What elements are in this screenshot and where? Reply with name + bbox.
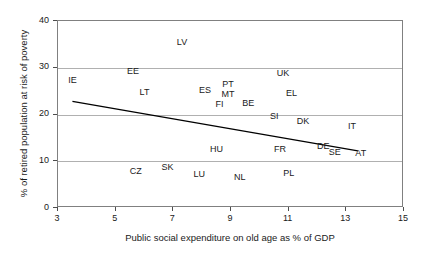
data-point-de: DE xyxy=(317,141,330,150)
x-tick-label-3: 3 xyxy=(47,214,67,223)
data-point-se: SE xyxy=(329,147,341,156)
data-point-hu: HU xyxy=(210,145,223,154)
data-point-pt: PT xyxy=(222,80,234,89)
scatter-chart-figure: % of retired population at risk of pover… xyxy=(0,0,424,253)
data-point-be: BE xyxy=(242,99,254,108)
data-point-fi: FI xyxy=(215,100,223,109)
y-tick-label-0: 0 xyxy=(27,203,49,212)
data-point-cz: CZ xyxy=(130,167,142,176)
data-point-uk: UK xyxy=(277,68,290,77)
data-point-fr: FR xyxy=(274,145,286,154)
data-point-el: EL xyxy=(286,88,297,97)
y-tick-label-10: 10 xyxy=(27,156,49,165)
x-axis-title: Public social expenditure on old age as … xyxy=(57,232,403,243)
x-tick-label-5: 5 xyxy=(105,214,125,223)
x-tick-label-9: 9 xyxy=(220,214,240,223)
data-point-mt: MT xyxy=(222,89,235,98)
data-point-lu: LU xyxy=(194,169,206,178)
data-point-si: SI xyxy=(270,111,279,120)
plot-area: LVEEUKIEPTESLTELMTBEFISIDKITDEHUFRSEATSK… xyxy=(57,20,403,207)
x-tick-label-11: 11 xyxy=(278,214,298,223)
data-point-nl: NL xyxy=(234,173,246,182)
data-point-dk: DK xyxy=(297,117,310,126)
data-point-lt: LT xyxy=(140,88,150,97)
data-point-it: IT xyxy=(348,122,356,131)
x-tick-label-7: 7 xyxy=(162,214,182,223)
y-tick-label-20: 20 xyxy=(27,109,49,118)
data-point-pl: PL xyxy=(283,168,294,177)
y-tick-label-30: 30 xyxy=(27,62,49,71)
data-point-es: ES xyxy=(199,86,211,95)
trendline xyxy=(58,21,404,208)
x-tick-label-15: 15 xyxy=(393,214,413,223)
data-point-at: AT xyxy=(355,148,366,157)
y-tick-label-40: 40 xyxy=(27,16,49,25)
data-point-ee: EE xyxy=(127,67,139,76)
data-point-ie: IE xyxy=(68,75,77,84)
data-point-lv: LV xyxy=(177,37,187,46)
x-tick-label-13: 13 xyxy=(335,214,355,223)
data-point-sk: SK xyxy=(162,162,174,171)
